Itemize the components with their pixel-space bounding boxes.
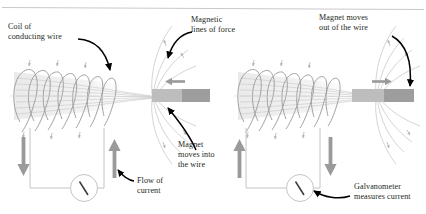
galvanometer-icon [71, 175, 98, 202]
callout-arrow-coil [78, 39, 110, 70]
label-coil: Coil of conducting wire [8, 22, 62, 42]
diagram-canvas: Coil of conducting wire Magnetic lines o… [0, 0, 426, 214]
current-arrow-icon-left [233, 139, 245, 178]
right-panel [168, 26, 420, 202]
galvanometer-icon [287, 175, 314, 202]
callout-arrow-field-lines [168, 32, 192, 58]
callout-arrow-magnet-out [392, 36, 410, 86]
current-arrow-icon-right [324, 137, 336, 176]
label-magnet-in: Magnet moves into the wire [178, 140, 215, 171]
current-arrow-icon-right [108, 139, 120, 178]
left-panel [10, 26, 210, 202]
top-divider [2, 8, 424, 10]
label-magnet-out: Magnet moves out of the wire [319, 13, 368, 33]
callout-arrow-galvanometer [314, 191, 350, 198]
bar-magnet-icon [352, 89, 414, 102]
bar-magnet-icon [152, 89, 210, 102]
label-galvanometer: Galvanometer measures current [354, 182, 411, 202]
label-field-lines: Magnetic lines of force [191, 15, 235, 35]
current-arrow-icon-left [17, 137, 29, 176]
label-current: Flow of current [137, 176, 163, 196]
callout-arrow-current [118, 170, 134, 181]
motion-arrow-icon [165, 78, 185, 85]
